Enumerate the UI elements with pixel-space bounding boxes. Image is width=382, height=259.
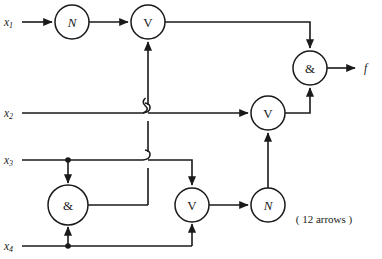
input-label-x1: x1 — [3, 16, 13, 30]
circuit-svg: N V & V & V — [0, 0, 382, 259]
gate-and-out-label: & — [305, 61, 315, 76]
gate-n-top-label: N — [67, 15, 78, 30]
gate-n-low-label: N — [263, 198, 274, 213]
gate-and-low[interactable]: & — [48, 185, 88, 225]
input-label-x4: x4 — [3, 240, 13, 254]
gate-v-low-label: V — [187, 198, 197, 213]
wire-x3-to-v-low — [148, 160, 192, 185]
input-label-x3: x3 — [3, 154, 13, 168]
gate-and-low-label: & — [63, 198, 73, 213]
input-label-x2: x2 — [3, 107, 13, 121]
wire-v-top-to-and-out — [165, 22, 310, 48]
gate-v-mid-label: V — [263, 106, 273, 121]
gate-v-top-label: V — [143, 15, 153, 30]
gate-v-mid[interactable]: V — [251, 96, 285, 130]
wire-x2-to-v-mid — [22, 98, 248, 113]
gate-layer: N V & V & V — [48, 5, 327, 225]
wire-v-mid-to-and-out — [285, 88, 310, 113]
gate-and-out[interactable]: & — [293, 51, 327, 85]
gate-v-low[interactable]: V — [175, 188, 209, 222]
gate-n-top[interactable]: N — [55, 5, 89, 39]
gate-n-low[interactable]: N — [251, 188, 285, 222]
gate-v-top[interactable]: V — [131, 5, 165, 39]
output-label-f: f — [364, 62, 369, 75]
wire-x3-hop — [143, 150, 150, 160]
junction-x3 — [65, 157, 71, 163]
diagram-canvas: N V & V & V — [0, 0, 382, 259]
junction-x4 — [65, 243, 71, 249]
arrow-count-note: ( 12 arrows ) — [296, 213, 353, 226]
